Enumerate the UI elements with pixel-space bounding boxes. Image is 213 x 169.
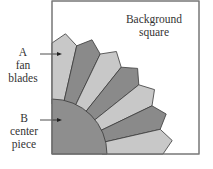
label-line: piece [6,138,42,151]
label-line: Background [120,13,188,26]
label-line: blades [6,72,40,85]
label-line: fan [6,59,40,72]
label-fan-blades: A fan blades [6,46,40,85]
label-letter: B [6,112,42,125]
label-letter: A [6,46,40,59]
label-background-square: Background square [120,13,188,39]
label-line: center [6,125,42,138]
label-line: square [120,26,188,39]
label-center-piece: B center piece [6,112,42,151]
